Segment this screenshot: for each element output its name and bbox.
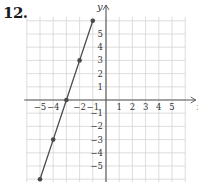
y-tick-label: −4 xyxy=(90,148,103,158)
data-point xyxy=(51,137,56,142)
data-point xyxy=(38,177,43,182)
y-tick-label: 5 xyxy=(98,29,103,39)
x-tick-label: 4 xyxy=(156,102,161,112)
x-tick-label: −5 xyxy=(34,102,47,112)
coordinate-plane: xy −5−4−2−11234554321−1−2−3−4−5 xyxy=(0,0,198,182)
data-point xyxy=(91,19,96,24)
y-tick-label: −3 xyxy=(90,135,103,145)
y-tick-label: −1 xyxy=(90,108,103,118)
x-tick-label: 1 xyxy=(116,102,121,112)
x-tick-label: 5 xyxy=(169,102,174,112)
data-point xyxy=(64,98,69,103)
y-tick-label: 2 xyxy=(98,69,103,79)
y-tick-label: 1 xyxy=(98,82,103,92)
x-tick-label: −2 xyxy=(73,102,86,112)
y-tick-label: 4 xyxy=(98,42,103,52)
data-point xyxy=(77,58,82,63)
y-tick-label: −2 xyxy=(90,121,103,131)
x-tick-label: 2 xyxy=(130,102,135,112)
x-axis-label: x xyxy=(197,101,198,112)
y-tick-label: 3 xyxy=(98,55,103,65)
y-axis-label: y xyxy=(96,1,103,12)
x-tick-label: −4 xyxy=(47,102,60,112)
x-tick-label: 3 xyxy=(143,102,148,112)
y-tick-label: −5 xyxy=(90,161,103,171)
